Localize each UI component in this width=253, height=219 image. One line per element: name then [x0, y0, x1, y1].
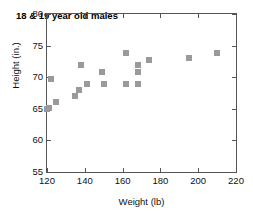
data-point: [146, 57, 152, 63]
y-tick-label: 75: [32, 41, 43, 51]
y-tick-mark: [47, 140, 51, 141]
data-point: [214, 50, 220, 56]
data-point: [123, 81, 129, 87]
data-point: [135, 69, 141, 75]
x-tick-mark: [123, 168, 124, 172]
x-tick-label: 180: [152, 176, 168, 186]
data-point: [78, 62, 84, 68]
data-point: [135, 62, 141, 68]
y-tick-mark-right: [232, 109, 236, 110]
y-tick-mark-right: [232, 172, 236, 173]
y-tick-label: 70: [32, 72, 43, 82]
x-tick-label: 160: [115, 176, 131, 186]
data-point: [53, 99, 59, 105]
data-point: [84, 81, 90, 87]
data-point: [76, 87, 82, 93]
y-tick-mark-right: [232, 46, 236, 47]
y-tick-label: 80: [32, 9, 43, 19]
data-point: [46, 105, 52, 111]
x-tick-label: 220: [228, 176, 244, 186]
x-tick-mark-top: [47, 14, 48, 18]
data-point: [72, 93, 78, 99]
x-tick-mark-top: [198, 14, 199, 18]
x-tick-mark-top: [236, 14, 237, 18]
scatter-chart: 18 & 19 year old males 556065707580 1201…: [0, 0, 253, 219]
y-tick-mark-right: [232, 77, 236, 78]
data-point: [135, 81, 141, 87]
y-axis-label: Height (in.): [10, 6, 21, 126]
y-tick-mark: [47, 172, 51, 173]
x-tick-mark: [47, 168, 48, 172]
x-tick-mark: [236, 168, 237, 172]
data-point: [101, 81, 107, 87]
plot-area: 556065707580 120140160180200220: [46, 13, 237, 173]
data-point: [48, 76, 54, 82]
data-point: [99, 69, 105, 75]
y-tick-mark-right: [232, 140, 236, 141]
y-tick-label: 65: [32, 104, 43, 114]
x-axis-label: Weight (lb): [46, 196, 237, 207]
y-tick-mark: [47, 46, 51, 47]
y-tick-label: 60: [32, 136, 43, 146]
data-point: [123, 50, 129, 56]
x-tick-mark: [160, 168, 161, 172]
x-tick-label: 120: [39, 176, 55, 186]
x-tick-mark-top: [123, 14, 124, 18]
x-tick-mark-top: [85, 14, 86, 18]
x-tick-label: 200: [190, 176, 206, 186]
x-tick-label: 140: [77, 176, 93, 186]
x-tick-mark-top: [160, 14, 161, 18]
x-tick-mark: [85, 168, 86, 172]
data-point: [186, 55, 192, 61]
x-tick-mark: [198, 168, 199, 172]
